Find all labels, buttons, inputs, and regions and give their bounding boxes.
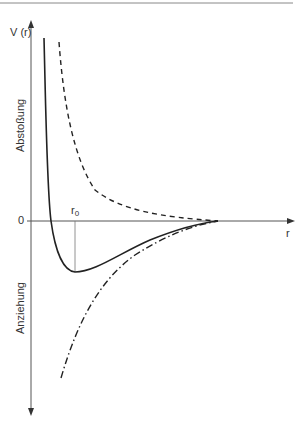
attraction-label: Anziehung bbox=[15, 282, 26, 334]
repulsive-curve bbox=[59, 42, 218, 221]
potential-diagram bbox=[0, 0, 306, 431]
repulsion-label: Abstoßung bbox=[15, 99, 26, 152]
r0-label: r0 bbox=[71, 205, 79, 218]
r0-label-subscript: 0 bbox=[75, 209, 79, 218]
y-axis-label: V (r) bbox=[10, 27, 31, 38]
total-potential-curve bbox=[44, 38, 218, 272]
origin-label: 0 bbox=[18, 215, 24, 226]
x-axis-label: r bbox=[286, 228, 290, 239]
